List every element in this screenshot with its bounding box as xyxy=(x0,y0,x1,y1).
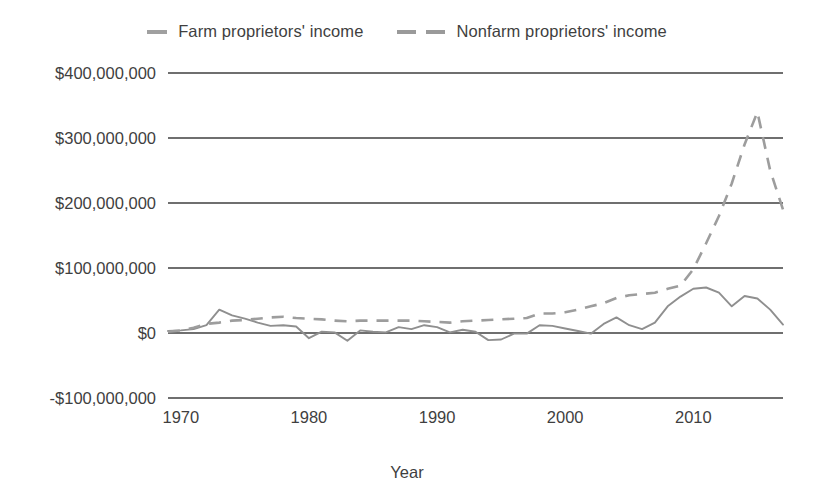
x-axis-tick-label: 2010 xyxy=(675,408,712,427)
series-line-nonfarm xyxy=(168,112,783,332)
x-axis-tick-label: 1980 xyxy=(291,408,328,427)
y-axis-tick-label: $0 xyxy=(0,324,156,343)
x-axis-tick-label: 1970 xyxy=(162,408,199,427)
y-axis-tick-label: $300,000,000 xyxy=(0,129,156,148)
y-axis-tick-label: $200,000,000 xyxy=(0,194,156,213)
x-axis-tick-label: 1990 xyxy=(419,408,456,427)
chart-container: Farm proprietors' income Nonfarm proprie… xyxy=(0,0,814,504)
x-axis-tick-label: 2000 xyxy=(547,408,584,427)
x-axis-title: Year xyxy=(0,463,814,482)
y-axis-tick-label: $100,000,000 xyxy=(0,259,156,278)
y-axis-tick-label: $400,000,000 xyxy=(0,64,156,83)
y-axis-tick-label: -$100,000,000 xyxy=(0,389,156,408)
